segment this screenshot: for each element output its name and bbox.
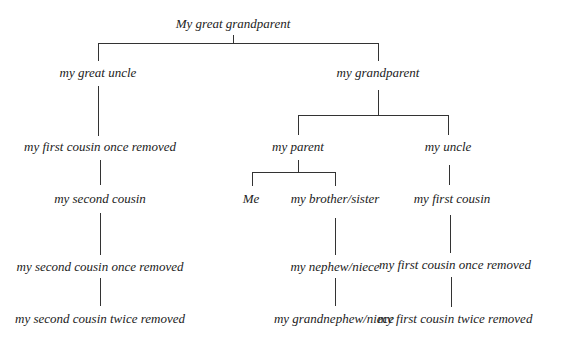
node-second-cousin-once-removed: my second cousin once removed xyxy=(16,260,183,274)
connector-line xyxy=(98,43,379,44)
connector-line xyxy=(335,218,336,255)
node-second-cousin: my second cousin xyxy=(54,192,146,206)
connector-line xyxy=(335,172,336,186)
connector-line xyxy=(378,43,379,61)
node-first-cousin-once-removed-left: my first cousin once removed xyxy=(24,140,176,154)
node-first-cousin-twice-removed: my first cousin twice removed xyxy=(378,312,533,326)
connector-line xyxy=(298,160,299,172)
node-grandnephew-niece: my grandnephew/niece xyxy=(274,312,394,326)
connector-line xyxy=(252,172,253,186)
node-me: Me xyxy=(243,192,260,206)
connector-line xyxy=(298,115,299,135)
connector-line xyxy=(100,160,101,185)
connector-line xyxy=(98,43,99,61)
connector-line xyxy=(448,115,449,135)
family-tree-diagram: My great grandparent my great uncle my g… xyxy=(0,0,567,346)
node-great-uncle: my great uncle xyxy=(60,66,137,80)
node-uncle: my uncle xyxy=(425,140,472,154)
node-nephew-niece: my nephew/niece xyxy=(290,260,379,274)
node-parent: my parent xyxy=(272,140,324,154)
connector-line xyxy=(100,278,101,306)
connector-line xyxy=(252,172,336,173)
connector-line xyxy=(233,35,234,43)
node-first-cousin-once-removed-right: my first cousin once removed xyxy=(379,258,531,272)
node-second-cousin-twice-removed: my second cousin twice removed xyxy=(15,312,185,326)
node-great-grandparent: My great grandparent xyxy=(176,17,291,31)
connector-line xyxy=(449,165,450,185)
connector-line xyxy=(98,86,99,136)
connector-line xyxy=(298,115,449,116)
connector-line xyxy=(335,278,336,306)
connector-line xyxy=(450,215,451,253)
node-grandparent: my grandparent xyxy=(337,66,420,80)
connector-line xyxy=(451,277,452,307)
node-brother-sister: my brother/sister xyxy=(291,192,380,206)
connector-line xyxy=(100,213,101,255)
node-first-cousin: my first cousin xyxy=(414,192,491,206)
connector-line xyxy=(378,90,379,115)
